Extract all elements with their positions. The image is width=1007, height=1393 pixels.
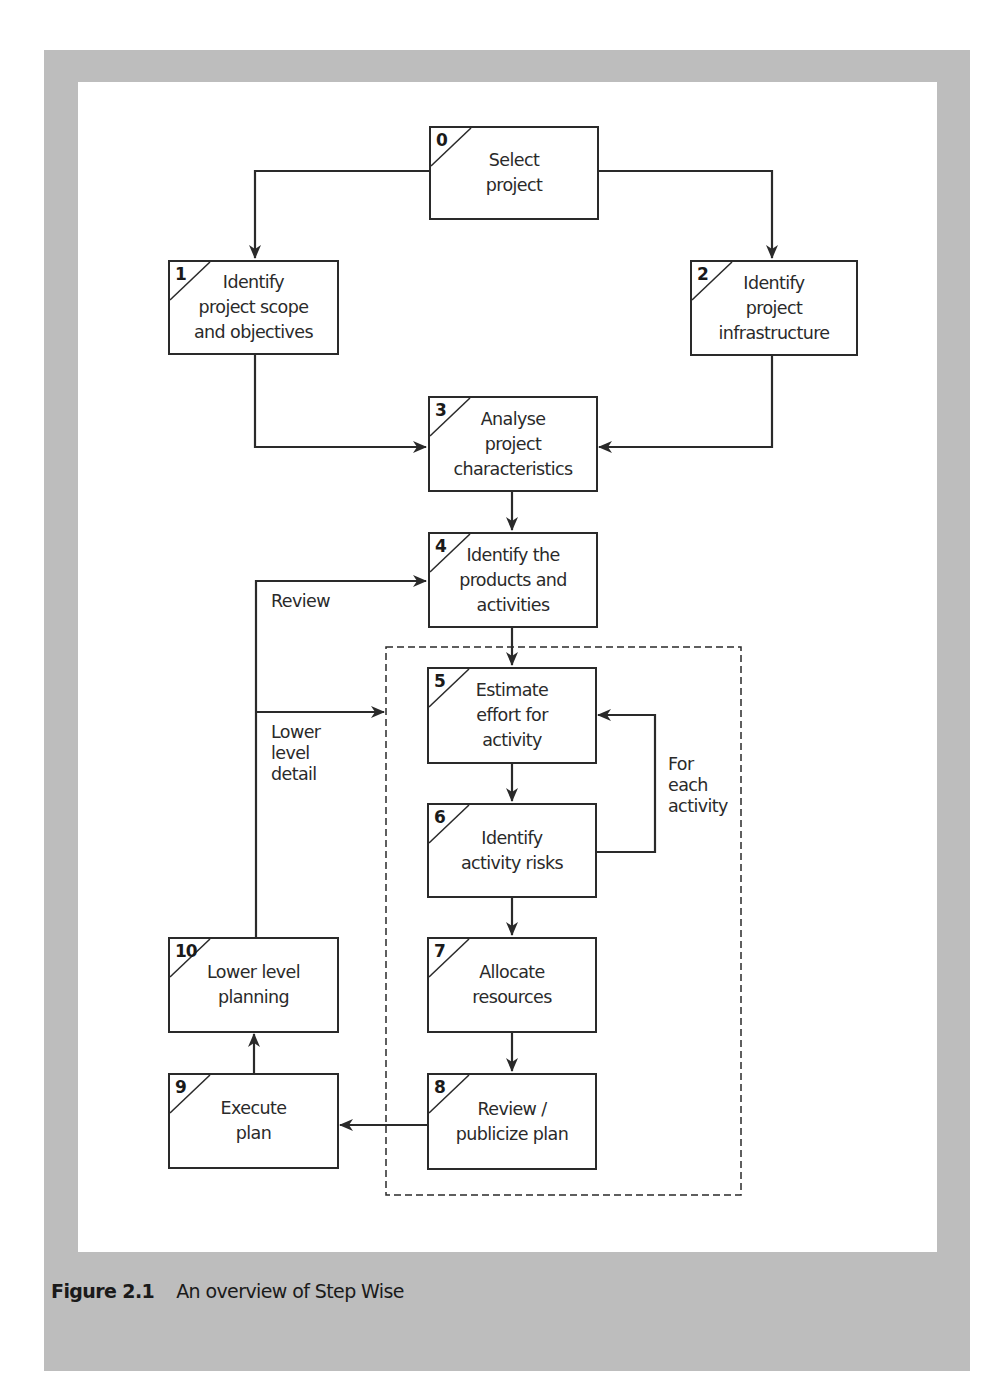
figure-title: An overview of Step Wise [176, 1280, 404, 1302]
step-number: 7 [434, 939, 445, 964]
step-label: Select project [480, 148, 549, 198]
step-label: Estimate effort for activity [470, 678, 555, 753]
step-9-execute-plan: 9 Execute plan [168, 1073, 339, 1169]
step-number: 8 [434, 1075, 445, 1100]
edge-6-5-loop [596, 715, 655, 852]
step-label: Allocate resources [466, 960, 557, 1010]
step-number: 10 [175, 939, 197, 964]
step-10-lower-level-planning: 10 Lower level planning [168, 937, 339, 1033]
step-3-analyse-characteristics: 3 Analyse project characteristics [428, 396, 598, 492]
step-number: 3 [435, 398, 446, 423]
step-1-identify-scope: 1 Identify project scope and objectives [168, 260, 339, 355]
step-6-identify-risks: 6 Identify activity risks [427, 803, 597, 898]
annotation-review: Review [271, 591, 330, 612]
step-label: Execute plan [215, 1096, 293, 1146]
figure-caption: Figure 2.1An overview of Step Wise [51, 1280, 404, 1302]
annotation-for-each-activity: For each activity [668, 754, 728, 817]
step-0-select-project: 0 Select project [429, 126, 599, 220]
step-number: 4 [435, 534, 446, 559]
step-4-identify-products: 4 Identify the products and activities [428, 532, 598, 628]
edge-1-3 [255, 354, 426, 447]
step-7-allocate-resources: 7 Allocate resources [427, 937, 597, 1033]
step-2-identify-infrastructure: 2 Identify project infrastructure [690, 260, 858, 356]
step-5-estimate-effort: 5 Estimate effort for activity [427, 667, 597, 764]
annotation-lower-level-detail: Lower level detail [271, 722, 320, 785]
step-number: 0 [436, 128, 447, 153]
step-number: 2 [697, 262, 708, 287]
step-number: 1 [175, 262, 186, 287]
step-number: 9 [175, 1075, 186, 1100]
edge-0-1 [255, 171, 429, 258]
step-number: 6 [434, 805, 445, 830]
figure-number: Figure 2.1 [51, 1280, 154, 1302]
step-label: Lower level planning [201, 960, 306, 1010]
step-number: 5 [434, 669, 445, 694]
edge-2-3 [599, 355, 772, 447]
step-8-review-publicize: 8 Review / publicize plan [427, 1073, 597, 1170]
edge-0-2 [598, 171, 772, 258]
